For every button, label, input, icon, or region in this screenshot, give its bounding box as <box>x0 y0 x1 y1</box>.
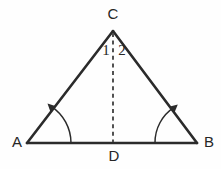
angle-arc-B <box>155 107 174 143</box>
vertex-label-D: D <box>109 147 120 164</box>
geometry-canvas: C A B D 1 2 <box>0 0 221 169</box>
segment-side-AC <box>27 31 113 143</box>
vertex-label-B: B <box>204 133 214 150</box>
angle-label-2: 2 <box>118 42 126 58</box>
vertex-label-A: A <box>12 133 22 150</box>
angle-arc-A <box>51 106 71 143</box>
angle-label-1: 1 <box>102 42 110 58</box>
vertex-label-C: C <box>108 5 119 22</box>
geometry-figure: C A B D 1 2 <box>0 0 221 169</box>
